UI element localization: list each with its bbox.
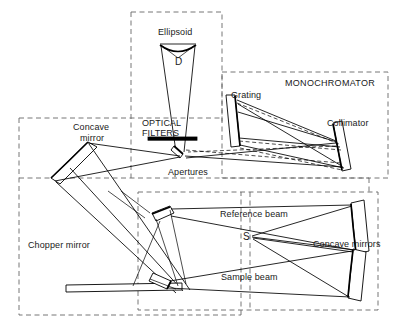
mono-ray-4 — [240, 145, 344, 168]
label-optical-filters-line1: OPTICAL — [142, 118, 181, 129]
grating-group — [226, 95, 240, 147]
label-concave-mirrors: Concave mirrors — [313, 239, 381, 250]
optical-diagram: .dbox{ fill:none; stroke:#666; stroke-wi… — [0, 0, 398, 327]
sample-concave-mirrors — [348, 200, 369, 301]
source-beam-cone-right — [184, 46, 195, 152]
mono-ray-5 — [186, 143, 336, 158]
aperture-mirror-group — [171, 146, 183, 158]
mono-ray-2 — [238, 112, 337, 142]
label-sample-point: S — [243, 231, 250, 242]
label-concave-mirror-line1: Concave — [73, 122, 109, 133]
label-monochromator: MONOCHROMATOR — [285, 78, 375, 89]
label-concave-mirror-line2: mirror — [80, 133, 104, 144]
label-ellipsoid-angle: D — [175, 56, 182, 67]
label-sample-beam: Sample beam — [221, 272, 278, 283]
ray-mirror-mid-to-chopper — [70, 168, 183, 291]
label-collimator: Collimator — [327, 118, 369, 129]
sample-beam-lower — [168, 288, 350, 297]
ray-aperture-to-mirror-top — [88, 143, 180, 156]
label-reference-beam: Reference beam — [220, 209, 288, 220]
optical-schematic-svg: .dbox{ fill:none; stroke:#666; stroke-wi… — [0, 0, 398, 327]
monochromator-rays — [185, 100, 344, 170]
mono-ray-dashed-1 — [237, 103, 339, 144]
ray-upper-fold-b — [121, 191, 150, 213]
label-ellipsoid: Ellipsoid — [158, 27, 192, 38]
label-apertures: Apertures — [168, 167, 208, 178]
label-chopper-mirror: Chopper mirror — [28, 240, 90, 251]
label-optical-filters-line2: FILTERS — [142, 128, 179, 139]
label-grating: Grating — [231, 90, 261, 101]
mono-ray-1 — [237, 100, 336, 141]
